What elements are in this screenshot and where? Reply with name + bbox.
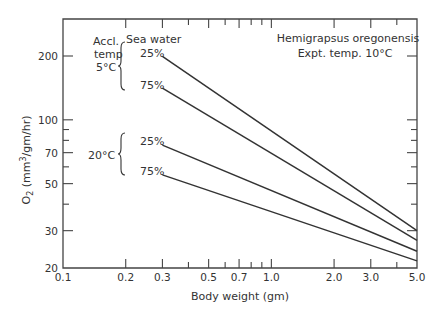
series-label-5c-75: 75% <box>140 79 164 92</box>
x-tick-label: 0.3 <box>154 271 171 283</box>
series-line <box>162 56 417 230</box>
y-tick-label: 50 <box>45 178 58 190</box>
brace-20c <box>118 133 125 175</box>
y-tick-label: 30 <box>45 225 58 237</box>
chart-title: Hemigrapsus oregonensis <box>277 32 420 45</box>
x-axis-label: Body weight (gm) <box>191 290 289 303</box>
chart: 0.10.20.30.50.71.02.03.05.0 203050701002… <box>0 0 442 315</box>
y-axis-ticks <box>63 56 417 231</box>
y-tick-labels: 20305070100200 <box>38 50 58 274</box>
temp-label: temp <box>94 48 123 61</box>
x-tick-label: 5.0 <box>409 271 426 283</box>
temp-20c-label: 20°C <box>88 149 115 162</box>
accl-label: Accl. <box>93 35 119 48</box>
x-tick-label: 0.7 <box>231 271 248 283</box>
x-tick-labels: 0.10.20.30.50.71.02.03.05.0 <box>55 271 426 283</box>
y-tick-label: 70 <box>45 147 58 159</box>
data-lines <box>162 56 417 260</box>
y-tick-label: 100 <box>38 114 58 126</box>
y-tick-label: 200 <box>38 50 58 62</box>
x-tick-label: 1.0 <box>263 271 280 283</box>
sea-water-header: Sea water <box>126 33 182 46</box>
chart-subtitle: Expt. temp. 10°C <box>298 47 393 60</box>
x-tick-label: 0.5 <box>200 271 217 283</box>
series-label-20c-75: 75% <box>140 165 164 178</box>
series-line <box>162 145 417 251</box>
x-tick-label: 2.0 <box>326 271 343 283</box>
x-tick-label: 3.0 <box>362 271 379 283</box>
x-tick-label: 0.2 <box>117 271 134 283</box>
y-axis-label: O2 (mm3/gm/hr) <box>19 116 35 205</box>
y-tick-label: 20 <box>45 262 58 274</box>
series-label-5c-25: 25% <box>140 47 164 60</box>
temp-5c-label: 5°C <box>96 61 116 74</box>
series-label-20c-25: 25% <box>140 135 164 148</box>
